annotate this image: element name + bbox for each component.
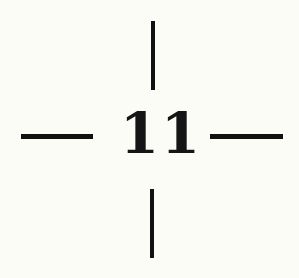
crosshair-bottom-line	[150, 189, 154, 258]
crosshair-top-line	[151, 21, 155, 90]
crosshair-right-line	[210, 134, 283, 139]
center-number: 11	[120, 103, 186, 163]
crosshair-left-line	[21, 134, 93, 139]
crosshair-card: 11	[0, 0, 299, 278]
